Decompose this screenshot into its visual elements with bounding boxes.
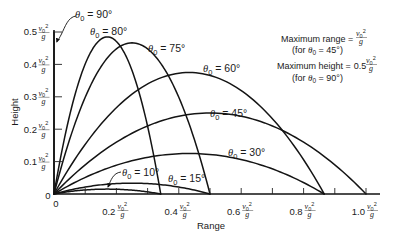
annotation-max-height: Maximum height =0.5 v02g (for θ0 = 90°) <box>277 55 377 85</box>
unit-denominator: g <box>183 210 187 219</box>
curve-label-75deg: θ0 = 75° <box>148 42 185 57</box>
x-axis-title: Range <box>197 220 225 231</box>
unit-denominator: g <box>369 64 373 73</box>
x-tick-value: 0.8 <box>289 206 302 217</box>
x-tick-labels: 0.2v02g0.4v02g0.6v02g0.8v02g1.0v02g <box>102 201 378 220</box>
curve-label-90deg: θ0 = 90° <box>75 8 112 23</box>
curve-label-15deg: θ0 = 15° <box>168 172 205 187</box>
max-range-label: Maximum range = <box>281 34 353 44</box>
x-tick-label: 1.0v02g <box>352 201 378 220</box>
unit-denominator: g <box>245 210 249 219</box>
y-tick-value: 0.3 <box>24 91 37 102</box>
y-tick-label: 0.4v02g <box>24 55 50 74</box>
x-tick-label: 0.2v02g <box>102 201 128 220</box>
unit-denominator: g <box>308 210 312 219</box>
unit-denominator: g <box>120 210 124 219</box>
y-axis-title: Height <box>9 98 20 126</box>
x-tick-value: 0.4 <box>165 206 178 217</box>
max-height-unit: v02g <box>366 55 377 74</box>
curve-label-10deg: θ0 = 10° <box>122 166 159 181</box>
x-tick-value: 0.2 <box>102 206 115 217</box>
unit-denominator: g <box>359 37 363 46</box>
y-tick-value: 0.5 <box>24 26 37 37</box>
unit-denominator: g <box>42 97 46 106</box>
max-range-condition: (for θ0 = 45°) <box>292 45 343 56</box>
unit-denominator: g <box>42 32 46 41</box>
y-tick-value: 0.1 <box>24 156 37 167</box>
max-height-condition: (for θ0 = 90°) <box>292 73 343 84</box>
max-height-label: Maximum height =0.5 <box>277 61 366 71</box>
x-tick-label: 0.4v02g <box>165 201 191 220</box>
annotation-max-range: Maximum range = v02g (for θ0 = 45°) <box>281 28 367 57</box>
x-origin-label: 0 <box>53 198 58 209</box>
unit-denominator: g <box>42 130 46 139</box>
x-tick-label: 0.6v02g <box>227 201 253 220</box>
trajectory-15deg <box>54 183 210 194</box>
pointer-arrow-90deg <box>57 16 76 42</box>
y-tick-value: 0.2 <box>24 124 37 135</box>
y-tick-labels: 0.1v02g0.2v02g0.3v02g0.4v02g0.5v02g <box>24 23 50 171</box>
unit-denominator: g <box>42 65 46 74</box>
x-tick-label: 0.8v02g <box>289 201 315 220</box>
y-tick-label: 0.5v02g <box>24 23 50 42</box>
curve-label-30deg: θ0 = 30° <box>228 146 265 161</box>
y-tick-label: 0.1v02g <box>24 152 50 171</box>
y-tick-label: 0.2v02g <box>24 120 50 139</box>
projectile-trajectory-chart: 0.2v02g0.4v02g0.6v02g0.8v02g1.0v02g 0.1v… <box>0 0 396 240</box>
y-tick-value: 0.4 <box>24 59 37 70</box>
max-height-coefficient: 0.5 <box>354 61 367 71</box>
y-origin-label: 0 <box>45 190 50 201</box>
curve-label-60deg: θ0 = 60° <box>203 62 240 77</box>
y-tick-label: 0.3v02g <box>24 87 50 106</box>
x-tick-value: 0.6 <box>227 206 240 217</box>
curve-label-45deg: θ0 = 45° <box>210 107 247 122</box>
unit-denominator: g <box>42 162 46 171</box>
x-tick-value: 1.0 <box>352 206 365 217</box>
unit-denominator: g <box>370 210 374 219</box>
curve-labels: θ0 = 90°θ0 = 80°θ0 = 75°θ0 = 60°θ0 = 45°… <box>75 8 265 187</box>
max-range-unit: v02g <box>356 28 367 47</box>
